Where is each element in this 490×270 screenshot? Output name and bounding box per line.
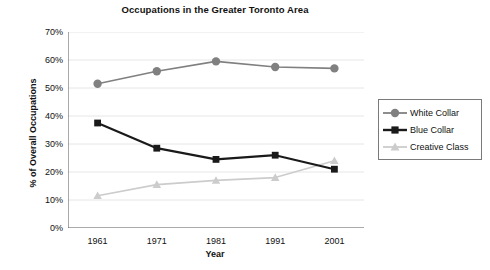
x-tick-label: 1991 — [265, 236, 285, 246]
legend-swatch-square-icon — [382, 123, 408, 137]
series-creative-class — [93, 157, 338, 200]
legend-label: Blue Collar — [408, 125, 454, 135]
data-point-marker — [153, 145, 160, 152]
chart-figure: Occupations in the Greater Toronto Area … — [0, 0, 490, 270]
y-tick-label: 40% — [45, 111, 63, 121]
x-tick-label: 1961 — [88, 236, 108, 246]
y-tick-label: 10% — [45, 195, 63, 205]
legend-swatch-circle-icon — [382, 106, 408, 120]
legend-label: Creative Class — [408, 142, 469, 152]
y-tick-label: 0% — [50, 223, 63, 233]
legend-item[interactable]: Creative Class — [382, 138, 477, 155]
x-tick-label: 1981 — [206, 236, 226, 246]
y-tick-label: 70% — [45, 27, 63, 37]
chart-title: Occupations in the Greater Toronto Area — [60, 4, 370, 15]
chart-legend: White CollarBlue CollarCreative Class — [378, 99, 482, 160]
data-point-marker — [331, 166, 338, 173]
y-tick-label: 20% — [45, 167, 63, 177]
series-blue-collar — [94, 120, 338, 173]
y-tick-label: 50% — [45, 83, 63, 93]
data-point-marker — [212, 57, 220, 65]
plot-area: 0%10%20%30%40%50%60%70%19611971198119912… — [68, 32, 364, 228]
data-point-marker — [271, 63, 279, 71]
x-axis-title: Year — [60, 249, 370, 259]
legend-label: White Collar — [408, 108, 459, 118]
plot-canvas — [68, 32, 364, 228]
data-point-marker — [94, 120, 101, 127]
legend-item[interactable]: Blue Collar — [382, 121, 477, 138]
data-point-marker — [391, 108, 399, 116]
legend-swatch-triangle-icon — [382, 140, 408, 154]
series-white-collar — [93, 57, 338, 88]
legend-item[interactable]: White Collar — [382, 104, 477, 121]
data-point-marker — [330, 157, 339, 165]
y-tick-label: 30% — [45, 139, 63, 149]
y-tick-label: 60% — [45, 55, 63, 65]
data-point-marker — [272, 152, 279, 159]
x-tick-label: 1971 — [147, 236, 167, 246]
data-point-marker — [330, 64, 338, 72]
data-point-marker — [391, 126, 398, 133]
x-tick-label: 2001 — [324, 236, 344, 246]
data-point-marker — [93, 80, 101, 88]
data-point-marker — [153, 67, 161, 75]
data-point-marker — [213, 156, 220, 163]
y-axis-title: % of Overall Occupations — [28, 38, 38, 228]
